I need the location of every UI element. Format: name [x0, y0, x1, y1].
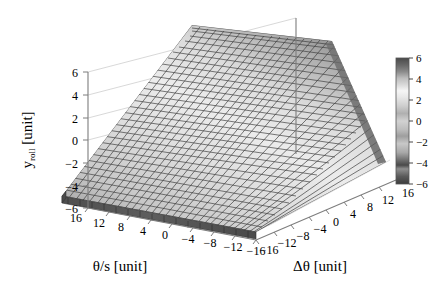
colorbar-tick-label: 0 — [416, 115, 422, 127]
z-tick-label: 2 — [72, 112, 78, 126]
colorbar-tick-label: 6 — [416, 52, 422, 64]
colorbar-tick-label: −4 — [416, 157, 428, 169]
y-tick-label: −4 — [314, 222, 327, 236]
surface-plot-canvas: 6 4 2 0 −2 −4 −6 yroll [unit] — [0, 0, 444, 285]
surface-mesh — [62, 25, 387, 239]
x-tick-label: −12 — [224, 240, 243, 254]
x-tick-label: 0 — [162, 228, 168, 242]
z-tick-label: −4 — [65, 180, 78, 194]
z-tick-label: 4 — [72, 89, 78, 103]
z-tick-label: 0 — [72, 134, 78, 148]
colorbar-gradient — [396, 58, 409, 184]
y-tick-label: 16 — [402, 186, 414, 200]
x-tick-label: 8 — [118, 220, 124, 234]
colorbar-tick-label: −6 — [416, 178, 428, 190]
y-axis-title: Δθ [unit] — [293, 258, 347, 274]
colorbar: 6 4 2 0 −2 −4 −6 — [396, 52, 428, 190]
colorbar-tick-labels: 6 4 2 0 −2 −4 −6 — [416, 52, 428, 190]
figure-3d-surface-plot: 6 4 2 0 −2 −4 −6 yroll [unit] — [0, 0, 444, 285]
svg-text:yroll [unit]: yroll [unit] — [19, 111, 37, 168]
x-tick-label: −4 — [182, 232, 195, 246]
z-axis-title: yroll [unit] — [19, 111, 37, 168]
colorbar-tick-label: 2 — [416, 94, 422, 106]
z-tick-label: −2 — [65, 157, 78, 171]
y-tick-label: −8 — [297, 229, 310, 243]
y-tick-label: 4 — [350, 207, 356, 221]
y-tick-label: −16 — [260, 243, 279, 257]
z-axis-title-sub: roll — [27, 148, 37, 161]
z-tick-label: 6 — [72, 66, 78, 80]
x-tick-label: 16 — [70, 211, 82, 225]
y-tick-label: 8 — [367, 200, 373, 214]
colorbar-tick-label: −2 — [416, 136, 428, 148]
y-tick-label: 12 — [382, 193, 394, 207]
x-axis-title: θ/s [unit] — [93, 258, 147, 274]
x-tick-label: 12 — [93, 216, 105, 230]
x-tick-label: −8 — [204, 236, 217, 250]
x-tick-label: 4 — [140, 224, 146, 238]
z-tick-labels: 6 4 2 0 −2 −4 −6 — [65, 66, 78, 216]
colorbar-tick-label: 4 — [416, 73, 422, 85]
y-tick-label: −12 — [278, 236, 297, 250]
y-tick-label: 0 — [333, 215, 339, 229]
z-axis-title-unit: [unit] — [19, 111, 35, 144]
